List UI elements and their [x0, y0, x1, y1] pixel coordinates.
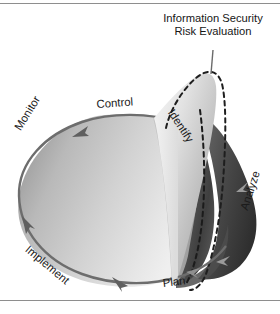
evaluation-title-line-1: Information Security: [163, 12, 263, 24]
title-leader-line: [211, 50, 213, 74]
cycle-label-control: Control: [96, 95, 134, 111]
evaluation-title: Information Security Risk Evaluation: [150, 12, 276, 38]
cycle-label-plan: Plan: [162, 274, 186, 290]
evaluation-title-line-2: Risk Evaluation: [174, 25, 251, 37]
diagram-figure: Information Security Risk Evaluation Con…: [0, 0, 280, 314]
